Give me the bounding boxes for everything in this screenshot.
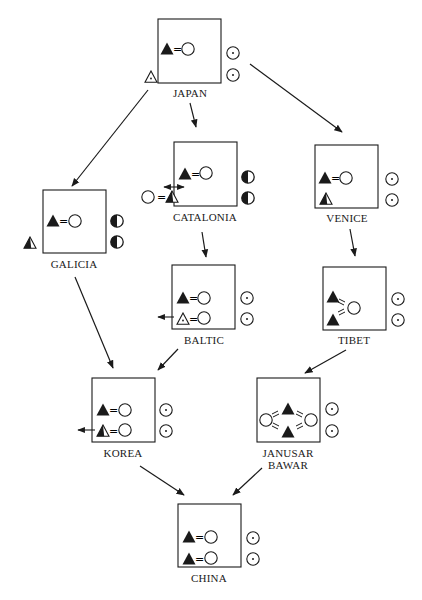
dot-circle-icon xyxy=(392,293,404,305)
label-korea: KOREA xyxy=(104,447,143,459)
open-circle-icon xyxy=(142,191,154,203)
equals-sign: = xyxy=(109,425,118,438)
open-circle-icon xyxy=(200,167,212,179)
edge-catalonia-baltic xyxy=(202,232,206,257)
label-china: CHINA xyxy=(191,572,227,584)
equals-sign: = xyxy=(59,215,68,228)
node-china: = = xyxy=(178,504,259,567)
node-catalonia: = = xyxy=(142,142,254,206)
equals-sign: = xyxy=(195,531,204,544)
equals-sign: = xyxy=(157,191,166,204)
open-circle-icon xyxy=(119,404,131,416)
half-filled-triangle-icon xyxy=(24,237,36,248)
node-venice: = xyxy=(315,145,398,208)
label-japan: JAPAN xyxy=(173,87,207,99)
open-circle-icon xyxy=(198,292,210,304)
dot-circle-icon xyxy=(247,553,259,565)
open-circle-icon xyxy=(182,43,194,55)
open-triangle-dot-icon xyxy=(145,71,157,82)
dot-circle-icon xyxy=(160,404,172,416)
open-circle-icon xyxy=(260,414,272,426)
label-tibet: TIBET xyxy=(338,334,370,346)
dot-circle-icon xyxy=(326,425,338,437)
open-circle-icon xyxy=(340,172,352,184)
equals-sign: = xyxy=(331,172,340,185)
label-venice: VENICE xyxy=(326,212,368,224)
dot-circle-icon xyxy=(247,532,259,544)
migration-diagram: = = = = = xyxy=(0,0,422,600)
open-circle-icon xyxy=(198,312,210,324)
dot-circle-icon xyxy=(386,173,398,185)
node-korea: = = xyxy=(78,378,172,442)
open-circle-icon xyxy=(348,302,360,314)
open-circle-icon xyxy=(205,531,217,543)
edge-tibet-janusar xyxy=(305,350,346,373)
equals-sign: = xyxy=(195,553,204,566)
node-baltic: = = xyxy=(158,265,253,329)
dot-circle-icon xyxy=(227,69,239,81)
node-tibet xyxy=(323,267,404,330)
label-janusar-bawar: JANUSAR BAWAR xyxy=(263,447,314,471)
equals-sign: = xyxy=(109,404,118,417)
edge-janusar-china xyxy=(233,468,262,495)
edge-korea-china xyxy=(140,466,184,495)
dot-circle-icon xyxy=(386,194,398,206)
label-galicia: GALICIA xyxy=(51,258,98,270)
half-circle-icon xyxy=(111,236,123,248)
label-baltic: BALTIC xyxy=(184,334,224,346)
half-circle-icon xyxy=(111,215,123,227)
equals-sign: = xyxy=(189,292,198,305)
edge-japan-galicia xyxy=(72,90,148,186)
node-japan: = xyxy=(145,19,239,83)
edge-japan-venice xyxy=(250,64,342,132)
open-circle-icon xyxy=(119,424,131,436)
open-circle-icon xyxy=(305,414,317,426)
node-galicia: = xyxy=(24,190,123,253)
dot-circle-icon xyxy=(241,313,253,325)
half-circle-icon xyxy=(242,171,254,183)
node-janusar-bawar xyxy=(257,378,338,442)
equals-sign: = xyxy=(173,43,182,56)
open-circle-icon xyxy=(69,215,81,227)
half-circle-icon xyxy=(242,192,254,204)
dot-circle-icon xyxy=(227,47,239,59)
equals-sign: = xyxy=(189,313,198,326)
dot-circle-icon xyxy=(392,314,404,326)
dot-circle-icon xyxy=(241,292,253,304)
edge-galicia-korea xyxy=(75,277,113,368)
edge-baltic-korea xyxy=(158,349,178,370)
equals-sign: = xyxy=(191,168,200,181)
open-circle-icon xyxy=(205,552,217,564)
dot-circle-icon xyxy=(326,403,338,415)
edge-venice-tibet xyxy=(350,229,355,256)
label-catalonia: CATALONIA xyxy=(173,211,237,223)
edge-japan-catalonia xyxy=(190,103,196,127)
dot-circle-icon xyxy=(160,425,172,437)
